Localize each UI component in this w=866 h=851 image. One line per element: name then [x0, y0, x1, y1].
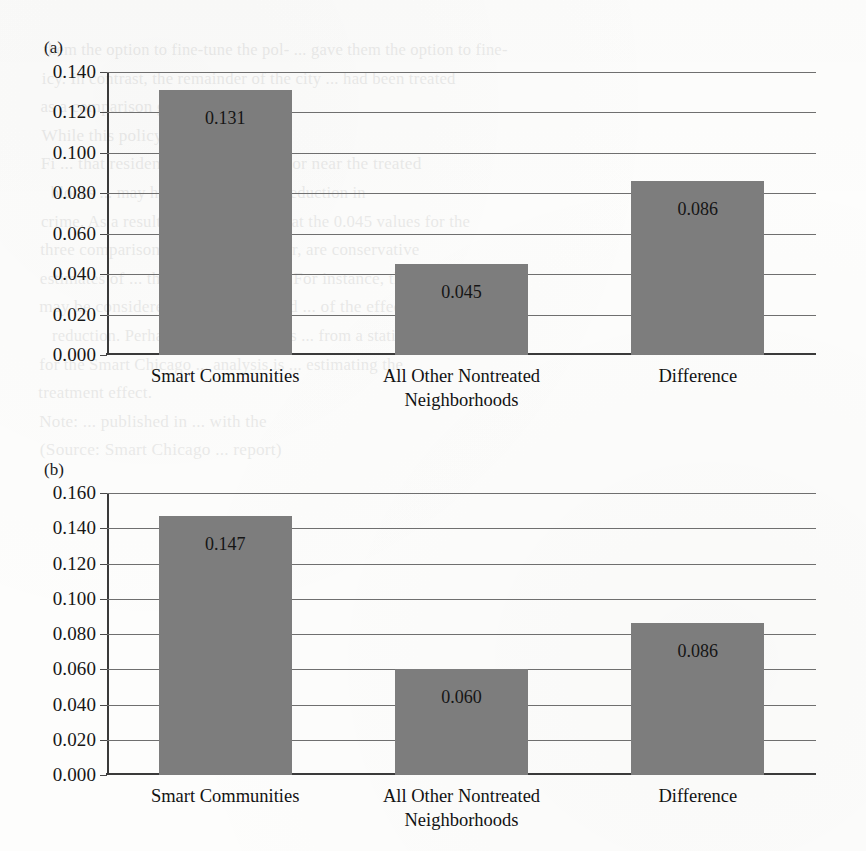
y-axis-tick-label: 0.160 [53, 482, 96, 504]
y-axis-tick-label: 0.060 [53, 223, 96, 245]
y-axis-tick-label: 0.140 [53, 517, 96, 539]
y-axis-tick [100, 669, 107, 670]
y-axis-tick [100, 355, 107, 356]
x-axis-category-label: All Other Nontreated Neighborhoods [383, 364, 540, 412]
bar-value-label: 0.086 [678, 199, 719, 220]
y-axis-tick [100, 193, 107, 194]
x-axis-category-label: Difference [658, 784, 737, 808]
y-axis-tick-label: 0.020 [53, 304, 96, 326]
x-axis-category-label: Difference [658, 364, 737, 388]
y-axis-tick-label: 0.120 [53, 101, 96, 123]
y-axis-tick [100, 153, 107, 154]
panel-a-tag: (a) [44, 38, 63, 58]
x-axis-category-label: Smart Communities [151, 364, 300, 388]
plot-area-a: 0.0000.0200.0400.0600.0800.1000.1200.140… [107, 72, 816, 355]
gridline [107, 72, 816, 73]
y-axis-tick [100, 112, 107, 113]
panel-b-tag: (b) [44, 460, 64, 480]
y-axis-tick-label: 0.020 [53, 729, 96, 751]
y-axis-tick-label: 0.120 [53, 553, 96, 575]
gridline [107, 493, 816, 494]
y-axis-tick [100, 634, 107, 635]
y-axis-tick [100, 564, 107, 565]
bar [159, 90, 292, 355]
y-axis-tick [100, 315, 107, 316]
bar-value-label: 0.045 [441, 282, 482, 303]
plot-area-b: 0.0000.0200.0400.0600.0800.1000.1200.140… [107, 493, 816, 775]
x-axis-category-label: Smart Communities [151, 784, 300, 808]
y-axis-tick-label: 0.080 [53, 623, 96, 645]
bar-value-label: 0.060 [441, 687, 482, 708]
x-axis-category-label: All Other Nontreated Neighborhoods [383, 784, 540, 832]
y-axis-tick-label: 0.060 [53, 658, 96, 680]
y-axis-tick [100, 528, 107, 529]
y-axis-tick-label: 0.000 [53, 344, 96, 366]
bar-value-label: 0.086 [678, 641, 719, 662]
y-axis-tick [100, 493, 107, 494]
y-axis-tick [100, 740, 107, 741]
chart-panel-b: (b) 0.0000.0200.0400.0600.0800.1000.1200… [0, 440, 866, 851]
y-axis-tick [100, 72, 107, 73]
bar-value-label: 0.131 [205, 108, 246, 129]
y-axis-tick-label: 0.080 [53, 182, 96, 204]
y-axis-tick [100, 599, 107, 600]
y-axis-tick-label: 0.040 [53, 694, 96, 716]
y-axis-line-a [107, 72, 109, 355]
bar-value-label: 0.147 [205, 534, 246, 555]
bar [395, 264, 528, 355]
chart-panel-a: (a) 0.0000.0200.0400.0600.0800.1000.1200… [0, 30, 866, 430]
y-axis-tick-label: 0.100 [53, 142, 96, 164]
y-axis-tick-label: 0.000 [53, 764, 96, 786]
y-axis-tick-label: 0.040 [53, 263, 96, 285]
y-axis-tick-label: 0.140 [53, 61, 96, 83]
y-axis-tick [100, 274, 107, 275]
y-axis-tick [100, 705, 107, 706]
bar [395, 669, 528, 775]
y-axis-tick-label: 0.100 [53, 588, 96, 610]
y-axis-tick [100, 775, 107, 776]
figure-page: them the option to fine-tune the pol- ..… [0, 0, 866, 851]
y-axis-tick [100, 234, 107, 235]
